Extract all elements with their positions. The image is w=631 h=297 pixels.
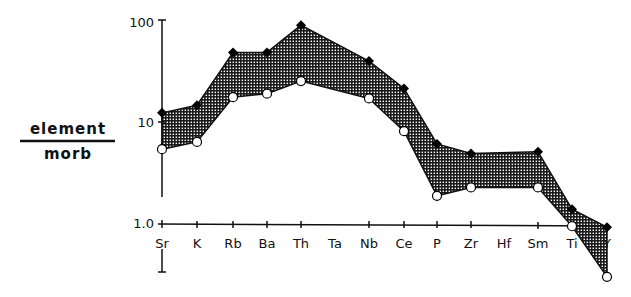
x-category-label-ba: Ba [259, 236, 276, 251]
x-category-label-ce: Ce [395, 236, 412, 251]
x-category-label-hf: Hf [497, 236, 512, 251]
spider-diagram: element morb 100 10 1.0 SrKRbBaThTaNbCeP… [0, 0, 631, 297]
x-category-label-zr: Zr [464, 236, 479, 251]
open-circle-marker [433, 191, 442, 200]
y-axis-label-numerator: element [30, 120, 106, 138]
x-category-label-p: P [433, 236, 441, 251]
x-category-label-rb: Rb [224, 236, 241, 251]
x-category-label-th: Th [292, 236, 309, 251]
open-circle-marker [400, 127, 409, 136]
y-axis-label-denominator: morb [44, 145, 92, 163]
y-tick-label-1: 1.0 [133, 216, 154, 231]
y-tick-label-10: 10 [137, 115, 154, 130]
x-category-labels: SrKRbBaThTaNbCePZrHfSmTiY [155, 236, 611, 251]
x-category-label-ti: Ti [565, 236, 577, 251]
x-axis [158, 220, 608, 229]
upper-bound-markers [157, 20, 612, 232]
y-tick-label-100: 100 [129, 15, 154, 30]
x-category-label-sm: Sm [528, 236, 549, 251]
open-circle-marker [534, 183, 543, 192]
open-circle-marker [193, 137, 202, 146]
open-circle-marker [568, 222, 577, 231]
x-category-label-y: Y [602, 236, 611, 251]
open-circle-marker [365, 94, 374, 103]
open-circle-marker [297, 77, 306, 86]
open-circle-marker [229, 93, 238, 102]
open-circle-marker [158, 145, 167, 154]
x-category-label-nb: Nb [360, 236, 378, 251]
open-circle-marker [603, 272, 612, 281]
x-category-label-sr: Sr [155, 236, 169, 251]
open-circle-marker [467, 183, 476, 192]
open-circle-marker [263, 89, 272, 98]
x-category-label-ta: Ta [327, 236, 342, 251]
x-category-label-k: K [193, 236, 202, 251]
